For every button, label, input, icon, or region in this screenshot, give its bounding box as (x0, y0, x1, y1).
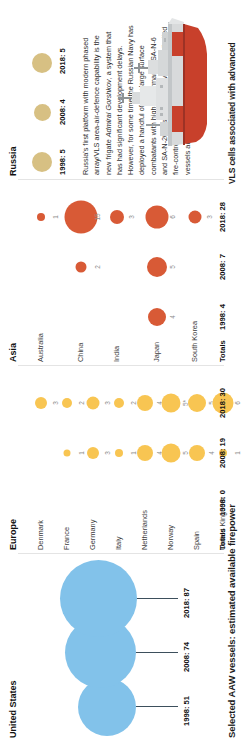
bubble-cell-netherlands-2008[interactable]: 4 (134, 426, 156, 480)
bubble-value-united-kingdom-2018: 6 (234, 401, 241, 405)
bubble-cell-spain-2018[interactable]: 5 (186, 376, 208, 430)
totals-label-europe: Totals (218, 528, 227, 550)
leader-line-us-1998 (136, 706, 178, 707)
bubble-value-china-2018: 15 (94, 213, 101, 220)
bubble-cell-china-2008[interactable]: 2 (64, 240, 98, 294)
bubble-value-australia-2018: 1 (52, 215, 59, 219)
bubble-cell-china-2018[interactable]: 15 (64, 190, 98, 244)
bubble-russia-2008[interactable] (34, 104, 51, 121)
totals-label-asia: Totals (218, 340, 227, 362)
bubble-cell-india-2018[interactable]: 3 (106, 190, 128, 244)
row-label-norway: Norway (160, 488, 182, 550)
bubble-cell-south-korea-2018[interactable]: 3 (184, 190, 206, 244)
bubble-cell-france-2008[interactable]: 1 (56, 426, 78, 480)
warship-illustration (112, 18, 228, 150)
label-russia-2018: 2018: 5 (58, 48, 67, 74)
bubble-value-india-2018: 3 (128, 215, 135, 219)
bubble-cell-australia-2018[interactable]: 1 (30, 190, 52, 244)
row-label-france: France (56, 488, 78, 550)
total-asia-2018: 2018: 28 (218, 202, 227, 232)
row-label-australia: Australia (30, 300, 52, 362)
bubble-russia-1998[interactable] (32, 152, 52, 172)
row-label-germany: Germany (82, 488, 104, 550)
row-label-south-korea: South Korea (184, 294, 206, 362)
bubble-cell-netherlands-2018[interactable]: 4 (134, 376, 156, 430)
bubble-cell-spain-2008[interactable]: 4 (186, 426, 208, 480)
bubble-cell-japan-2008[interactable]: 5 (142, 240, 172, 294)
table-row: Netherlands 4 4 (134, 366, 156, 552)
bubble-cell-germany-2008[interactable]: 3 (82, 426, 104, 480)
label-us-2008: 2008: 74 (182, 642, 191, 672)
label-russia-2008: 2008: 4 (58, 99, 67, 125)
total-europe-1998: 1998: 0 (218, 490, 227, 516)
region-panel-united-states: United States 1998: 51 2008: 74 2018: 87 (0, 594, 243, 744)
leader-line-us-2008 (136, 652, 178, 653)
bubble-russia-2018[interactable] (32, 53, 52, 73)
region-heading-united-states: United States (8, 680, 18, 738)
bubble-cell-japan-1998[interactable]: 4 (142, 290, 172, 344)
region-panel-europe: Europe Denmark 3 France 1 (0, 366, 243, 552)
bubble-cell-denmark-2018[interactable]: 3 (30, 376, 52, 430)
divider-us-europe (18, 553, 224, 554)
bubble-value-japan-1998: 4 (169, 315, 176, 319)
table-row: India 3 (106, 184, 128, 364)
table-row: Norway 5 5* (160, 366, 182, 552)
total-europe-2018: 2018: 30 (218, 388, 227, 418)
divider-europe-asia (18, 365, 224, 366)
total-asia-1998: 1998: 4 (218, 304, 227, 330)
bubble-cell-germany-2018[interactable]: 3 (82, 376, 104, 430)
bubble-cell-japan-2018[interactable]: 6 (142, 190, 172, 244)
row-label-denmark: Denmark (30, 488, 52, 550)
table-row: Germany 3 3 (82, 366, 104, 552)
total-asia-2008: 2008: 7 (218, 254, 227, 280)
row-label-india: India (106, 300, 128, 362)
infographic-canvas: Selected AAW vessels: estimated availabl… (0, 0, 243, 744)
row-label-spain: Spain (186, 488, 208, 550)
rotated-infographic-wrapper: Selected AAW vessels: estimated availabl… (0, 0, 243, 744)
total-europe-2008: 2008: 19 (218, 438, 227, 468)
row-label-netherlands: Netherlands (134, 488, 156, 550)
table-row: Australia 1 (30, 184, 52, 364)
bubble-us-2018[interactable] (60, 560, 137, 637)
table-row: Spain 4 5 (186, 366, 208, 552)
table-row: South Korea 3 (184, 184, 206, 364)
divider-asia-russia (18, 179, 224, 180)
table-row: Denmark 3 (30, 366, 52, 552)
bubble-value-china-2008: 2 (94, 265, 101, 269)
bubble-cell-italy-2008[interactable]: 1 (108, 426, 130, 480)
label-us-1998: 1998: 51 (182, 696, 191, 726)
leader-line-us-2018 (137, 598, 178, 599)
row-label-italy: Italy (108, 488, 130, 550)
bubble-value-united-kingdom-2008: 1 (234, 451, 241, 455)
region-heading-russia: Russia (8, 146, 18, 176)
table-row: China 2 15 (64, 184, 98, 364)
bubble-cell-norway-2008[interactable]: 5 (160, 426, 182, 480)
bubble-cell-norway-2018[interactable]: 5* (160, 376, 182, 430)
row-label-china: China (64, 300, 98, 362)
region-panel-asia: Asia Australia 1 China 2 (0, 184, 243, 364)
table-row: France 1 2 (56, 366, 78, 552)
region-heading-asia: Asia (8, 343, 18, 362)
label-us-2018: 2018: 87 (182, 588, 191, 618)
label-russia-1998: 1998: 5 (58, 149, 67, 175)
bubble-value-japan-2008: 5 (169, 265, 176, 269)
bubble-cell-italy-2018[interactable]: 2 (108, 376, 130, 430)
region-heading-europe: Europe (8, 519, 18, 550)
bubble-value-japan-2018: 6 (169, 215, 176, 219)
bubble-cell-france-2018[interactable]: 2 (56, 376, 78, 430)
table-row: Italy 1 2 (108, 366, 130, 552)
bubble-value-south-korea-2018: 3 (206, 215, 213, 219)
table-row: Japan 4 5 6 (142, 184, 172, 364)
